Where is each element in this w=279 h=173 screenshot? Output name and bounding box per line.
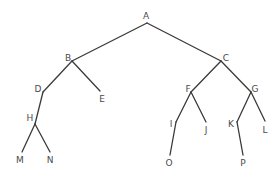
- node-label-n: N: [47, 155, 54, 165]
- edge-d-h: [35, 92, 43, 124]
- node-label-a: A: [143, 11, 150, 21]
- node-label-o: O: [165, 158, 172, 168]
- node-label-g: G: [252, 84, 259, 94]
- tree-edges: [22, 23, 265, 155]
- tree-node-labels: ABCDEFGHIJKLMNOP: [16, 11, 267, 168]
- edge-h-m: [22, 124, 35, 152]
- node-label-h: H: [27, 113, 34, 123]
- node-label-c: C: [223, 53, 229, 63]
- node-label-j: J: [204, 125, 208, 135]
- node-label-b: B: [65, 53, 71, 63]
- tree-diagram: ABCDEFGHIJKLMNOP: [0, 0, 279, 173]
- node-label-i: I: [170, 119, 173, 129]
- node-label-e: E: [99, 94, 105, 104]
- node-label-p: P: [240, 158, 246, 168]
- edge-a-b: [72, 23, 147, 61]
- edge-c-f: [191, 61, 221, 92]
- node-label-k: K: [228, 119, 235, 129]
- edge-g-k: [237, 92, 251, 122]
- node-label-d: D: [35, 84, 42, 94]
- edge-b-e: [72, 61, 100, 91]
- edge-g-l: [251, 92, 265, 121]
- node-label-l: L: [262, 125, 267, 135]
- edge-a-c: [147, 23, 221, 61]
- edge-h-n: [35, 124, 50, 152]
- edge-c-g: [221, 61, 251, 92]
- edge-b-d: [43, 61, 72, 92]
- node-label-m: M: [16, 155, 24, 165]
- edge-f-j: [191, 92, 206, 122]
- node-label-f: F: [185, 84, 190, 94]
- edge-k-p: [237, 122, 243, 155]
- edge-f-i: [176, 92, 191, 122]
